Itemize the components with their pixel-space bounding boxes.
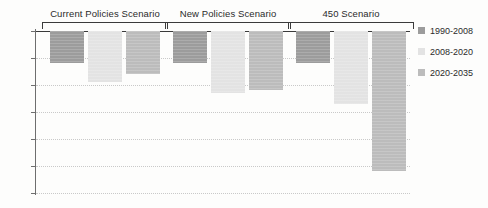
bar-chart: Current Policies Scenario New Policies S… — [0, 0, 488, 208]
gridline — [36, 193, 410, 194]
bar — [249, 31, 283, 90]
bar — [126, 31, 160, 74]
bar — [211, 31, 245, 93]
legend-swatch-icon — [418, 27, 425, 34]
y-axis-tick — [31, 112, 36, 113]
bar-texture — [50, 31, 84, 63]
bar-texture — [173, 31, 207, 63]
legend-label: 1990-2008 — [430, 26, 473, 36]
bar-texture — [126, 31, 160, 74]
chart-legend: 1990-20082008-20202020-2035 — [418, 25, 488, 88]
group-label: 450 Scenario — [288, 8, 414, 19]
bar-texture — [88, 31, 122, 82]
legend-swatch-icon — [418, 48, 425, 55]
group-label: Current Policies Scenario — [42, 8, 168, 19]
group-header-current-policies: Current Policies Scenario — [42, 8, 168, 30]
group-bracket — [42, 22, 168, 29]
legend-item[interactable]: 2008-2020 — [418, 46, 488, 57]
bar — [296, 31, 330, 63]
bar-texture — [249, 31, 283, 90]
legend-label: 2008-2020 — [430, 47, 473, 57]
gridline — [36, 166, 410, 167]
y-axis-tick — [31, 58, 36, 59]
bar-texture — [334, 31, 368, 104]
bar — [88, 31, 122, 82]
bar — [372, 31, 406, 171]
bar-texture — [372, 31, 406, 171]
gridline — [36, 112, 410, 113]
y-axis-tick — [31, 139, 36, 140]
legend-swatch-icon — [418, 69, 425, 76]
y-axis-tick — [31, 193, 36, 194]
group-bracket — [288, 22, 414, 29]
bar-texture — [211, 31, 245, 93]
legend-label: 2020-2035 — [430, 68, 473, 78]
group-header-new-policies: New Policies Scenario — [165, 8, 291, 30]
legend-item[interactable]: 1990-2008 — [418, 25, 488, 36]
bar-texture — [296, 31, 330, 63]
plot-area: 0%-1%-2%-3%-4%-5%-6% — [36, 31, 410, 193]
y-axis-tick — [31, 31, 36, 32]
y-axis-tick — [31, 166, 36, 167]
gridline — [36, 139, 410, 140]
bar — [334, 31, 368, 104]
y-axis-tick — [31, 85, 36, 86]
bar — [173, 31, 207, 63]
group-header-450-scenario: 450 Scenario — [288, 8, 414, 30]
legend-item[interactable]: 2020-2035 — [418, 67, 488, 78]
group-bracket — [165, 22, 291, 29]
group-label: New Policies Scenario — [165, 8, 291, 19]
bar — [50, 31, 84, 63]
